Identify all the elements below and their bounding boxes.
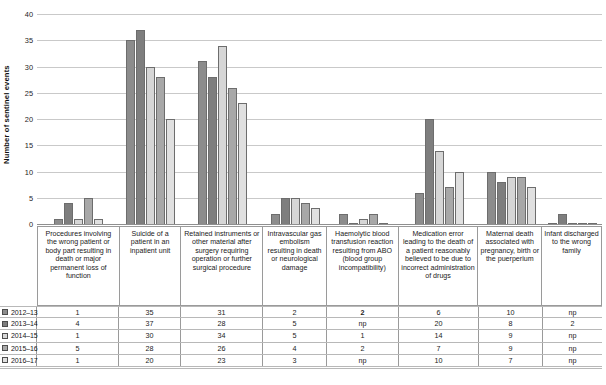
table-cell: 3 <box>263 355 327 366</box>
legend-item[interactable]: 2013–14 <box>0 318 37 329</box>
table-row: 2015–16528264279np <box>0 343 602 355</box>
table-cell: np <box>543 355 602 366</box>
table-cell: 2 <box>263 307 327 317</box>
bar <box>548 223 557 224</box>
y-axis-tick-label: 15 <box>0 141 33 150</box>
bar-group <box>399 14 479 224</box>
table-cells: 1353122610np <box>37 307 602 317</box>
bar <box>238 103 247 224</box>
legend-item[interactable]: 2015–16 <box>0 343 37 354</box>
bar <box>126 40 135 224</box>
bar <box>487 172 496 225</box>
bar <box>558 214 567 225</box>
bar <box>64 203 73 224</box>
table-cell: 26 <box>181 343 263 354</box>
y-axis-tick-label: 30 <box>0 62 33 71</box>
table-cells: 528264279np <box>37 343 602 354</box>
category-label: Medication error leading to the death of… <box>399 227 479 305</box>
legend-label: 2016–17 <box>11 357 38 364</box>
table-cell: 10 <box>479 307 543 317</box>
table-cell: 1 <box>37 330 119 341</box>
y-axis-tick-label: 20 <box>0 115 33 124</box>
y-axis-tick-label: 35 <box>0 36 33 45</box>
y-axis-tick-label: 0 <box>0 220 33 229</box>
legend-swatch-icon <box>2 333 8 339</box>
table-cell: np <box>543 343 602 354</box>
bar <box>228 88 237 225</box>
table-cell: 35 <box>119 307 181 317</box>
table-cell: 7 <box>399 343 479 354</box>
bar <box>359 219 368 224</box>
bar <box>301 203 310 224</box>
chart-figure: Number of sentinel events 40353025201510… <box>0 0 606 385</box>
bar <box>497 182 506 224</box>
bar <box>166 119 175 224</box>
bar <box>94 219 103 224</box>
y-axis-tick-label: 10 <box>0 167 33 176</box>
table-cell: 5 <box>263 318 327 329</box>
y-axis-ticks: 4035302520151050 <box>0 14 33 224</box>
category-label: Intravascular gas embolism resulting in … <box>263 227 327 305</box>
table-cell: 7 <box>479 355 543 366</box>
legend-item[interactable]: 2012–13 <box>0 307 37 317</box>
table-cell: np <box>543 330 602 341</box>
legend-item[interactable]: 2016–17 <box>0 355 37 366</box>
bar <box>379 223 388 224</box>
table-cell: 37 <box>119 318 181 329</box>
bar <box>527 187 536 224</box>
table-cell: 31 <box>181 307 263 317</box>
category-label: Maternal death associated with pregnancy… <box>478 227 542 305</box>
category-label: Procedures involving the wrong patient o… <box>38 227 120 305</box>
bar <box>415 193 424 225</box>
bar <box>507 177 516 224</box>
bar <box>156 77 165 224</box>
y-axis-tick-label: 40 <box>0 10 33 19</box>
bar-group <box>543 14 602 224</box>
legend-label: 2015–16 <box>11 345 38 352</box>
table-cell: 28 <box>119 343 181 354</box>
category-label: Retained instruments or other material a… <box>181 227 263 305</box>
table-row: 2012–131353122610np <box>0 306 602 318</box>
bar <box>455 172 464 225</box>
table-row: 2014–151303451149np <box>0 330 602 342</box>
data-table: 2012–131353122610np2013–14437285np208220… <box>0 306 602 368</box>
table-cell: 4 <box>263 343 327 354</box>
bar <box>369 214 378 225</box>
table-cell: 2 <box>543 318 602 329</box>
bar <box>349 223 358 224</box>
category-label: Haemolytic blood transfusion reaction re… <box>327 227 399 305</box>
table-cells: 120233np107np <box>37 355 602 366</box>
bar-group <box>119 14 181 224</box>
bar-groups <box>37 14 602 224</box>
bar <box>74 219 83 224</box>
table-cell: 20 <box>399 318 479 329</box>
legend-item[interactable]: 2014–15 <box>0 330 37 341</box>
bar <box>271 214 280 225</box>
table-cell: 9 <box>479 330 543 341</box>
table-cell: np <box>327 355 399 366</box>
category-panels: Procedures involving the wrong patient o… <box>37 226 602 306</box>
bar-group <box>479 14 543 224</box>
bar-group <box>37 14 119 224</box>
plot-area: Number of sentinel events 40353025201510… <box>0 0 606 232</box>
bar <box>54 219 63 224</box>
bar <box>588 223 597 224</box>
table-cell: 20 <box>119 355 181 366</box>
legend-swatch-icon <box>2 321 8 327</box>
bar <box>311 208 320 224</box>
category-label: Suicide of a patient in an inpatient uni… <box>120 227 182 305</box>
table-cell: 2 <box>327 307 399 317</box>
bar <box>568 223 577 224</box>
bar <box>445 187 454 224</box>
legend-label: 2012–13 <box>11 309 38 316</box>
y-axis-tick-label: 25 <box>0 88 33 97</box>
bar <box>136 30 145 224</box>
bar <box>281 198 290 224</box>
table-row: 2016–17120233np107np <box>0 355 602 367</box>
table-cell: 23 <box>181 355 263 366</box>
bar <box>218 46 227 225</box>
legend-label: 2013–14 <box>11 320 38 327</box>
axis-baseline <box>37 224 602 225</box>
table-bottom-rule <box>0 368 602 369</box>
table-cell: 28 <box>181 318 263 329</box>
